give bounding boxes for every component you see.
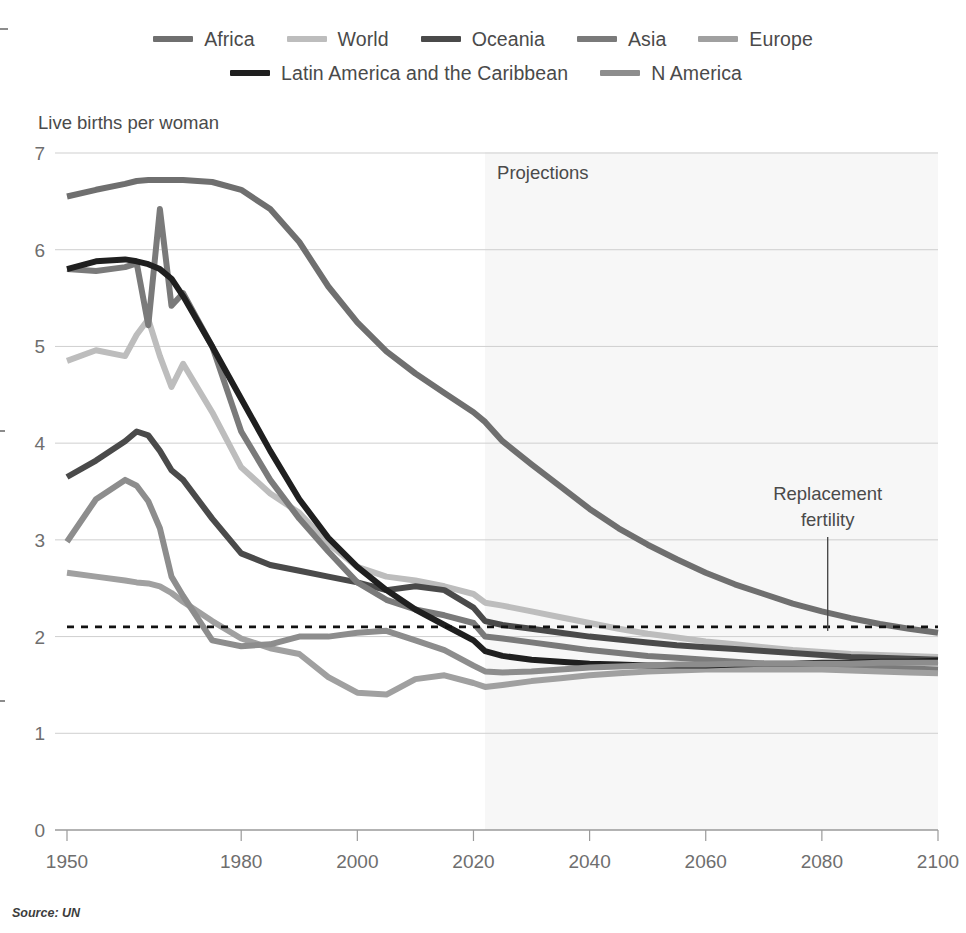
- fertility-chart: AfricaWorldOceaniaAsiaEurope Latin Ameri…: [0, 0, 966, 933]
- y-tick-label: 0: [34, 820, 45, 841]
- y-tick-label: 2: [34, 627, 45, 648]
- y-tick-label: 5: [34, 336, 45, 357]
- x-tick-label: 2020: [452, 851, 494, 872]
- x-tick-label: 2040: [568, 851, 610, 872]
- plot-area: 01234567 1950198020002020204020602080210…: [0, 0, 966, 933]
- y-tick-label: 3: [34, 530, 45, 551]
- projections-label: Projections: [497, 162, 589, 183]
- y-tick-label: 4: [34, 433, 45, 454]
- y-tick-label: 6: [34, 240, 45, 261]
- y-axis-ticks: 01234567: [34, 143, 45, 841]
- x-tick-label: 2060: [685, 851, 727, 872]
- x-axis-ticks: 19501980200020202040206020802100: [46, 830, 959, 872]
- replacement-fertility-label-line2: fertility: [801, 509, 855, 530]
- source-note: Source: UN: [12, 906, 80, 920]
- y-tick-label: 1: [34, 723, 45, 744]
- replacement-fertility-label-line1: Replacement: [773, 483, 882, 504]
- x-tick-label: 1980: [220, 851, 262, 872]
- x-tick-label: 2080: [801, 851, 843, 872]
- x-tick-label: 2000: [336, 851, 378, 872]
- x-tick-label: 2100: [917, 851, 959, 872]
- chart-svg: 01234567 1950198020002020204020602080210…: [0, 0, 966, 933]
- x-tick-label: 1950: [46, 851, 88, 872]
- y-tick-label: 7: [34, 143, 45, 164]
